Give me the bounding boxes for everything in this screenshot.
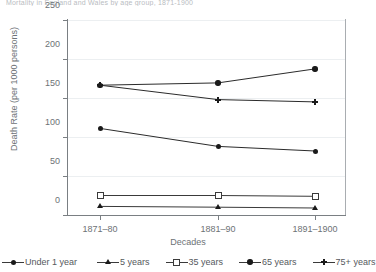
y-tick-label-50: 50	[20, 157, 60, 166]
data-point-75-plus-years-1891-1900	[312, 99, 318, 105]
legend-item-under-1-year[interactable]: Under 1 year	[2, 257, 79, 267]
legend-label-5-years: 5 years	[120, 257, 152, 267]
x-tick-label-1871-80: 1871–80	[60, 224, 140, 234]
legend-label-35-years: 35 years	[189, 257, 226, 267]
data-point-65-years-1891-1900	[312, 66, 317, 71]
legend-label-under-1-year: Under 1 year	[25, 257, 79, 267]
plot-area	[68, 20, 345, 215]
legend-label-65-years: 65 years	[262, 257, 299, 267]
data-point-35-years-1881-90	[215, 192, 222, 199]
data-point-under-1-year-1871-80	[98, 126, 103, 131]
y-tick-label-100: 100	[20, 118, 60, 127]
data-point-5-years-1891-1900	[312, 205, 318, 210]
x-tick-label-1891-1900: 1891–1900	[275, 224, 355, 234]
open-square-marker-icon	[166, 257, 188, 267]
x-tick-mark-1891-1900	[315, 216, 316, 220]
data-point-under-1-year-1881-90	[216, 144, 221, 149]
y-tick-label-200: 200	[20, 40, 60, 49]
x-axis-title: Decades	[0, 237, 376, 247]
y-tick-label-150: 150	[20, 79, 60, 88]
legend-item-35-years[interactable]: 35 years	[166, 257, 226, 267]
legend-item-5-years[interactable]: 5 years	[97, 257, 152, 267]
triangle-marker-icon	[97, 257, 119, 267]
plot-right-border	[345, 19, 346, 216]
data-point-35-years-1891-1900	[312, 193, 319, 200]
line-chart-figure: Mortality in England and Wales by age gr…	[0, 0, 376, 272]
legend-item-65-years[interactable]: 65 years	[239, 257, 299, 267]
series-lines	[68, 20, 345, 215]
legend-item-75-plus-years[interactable]: 75+ years	[313, 257, 376, 267]
data-point-75-plus-years-1881-90	[215, 97, 221, 103]
data-point-65-years-1881-90	[215, 80, 220, 85]
x-tick-mark-1881-90	[218, 216, 219, 220]
y-tick-label-250: 250	[20, 1, 60, 10]
x-tick-label-1881-90: 1881–90	[178, 224, 258, 234]
x-axis-line	[67, 215, 346, 216]
chart-legend: Under 1 year 5 years 35 years 65 years 7…	[0, 255, 376, 269]
data-point-5-years-1881-90	[215, 204, 221, 209]
data-point-under-1-year-1891-1900	[313, 149, 318, 154]
legend-label-75-plus-years: 75+ years	[336, 257, 376, 267]
cross-marker-icon	[313, 257, 335, 267]
data-point-5-years-1871-80	[97, 203, 103, 208]
data-point-35-years-1871-80	[97, 192, 104, 199]
y-tick-label-0: 0	[20, 196, 60, 205]
diamond-marker-icon	[2, 257, 24, 267]
circle-marker-icon	[239, 257, 261, 267]
data-point-75-plus-years-1871-80	[97, 82, 103, 88]
y-axis-title: Death Rate (per 1000 persons)	[9, 0, 19, 179]
x-tick-mark-1871-80	[100, 216, 101, 220]
